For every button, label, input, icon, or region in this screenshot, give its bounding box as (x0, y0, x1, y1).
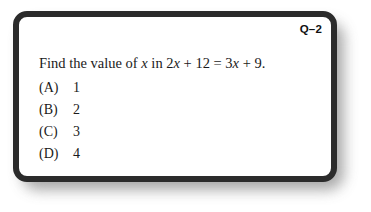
option-value: 2 (73, 102, 80, 118)
question-card: Q–2 Find the value of x in 2x + 12 = 3x … (13, 11, 337, 182)
option-key: (B) (39, 102, 73, 118)
option-value: 1 (73, 80, 80, 96)
answer-option-a[interactable]: (A) 1 (39, 80, 299, 102)
option-key: (C) (39, 124, 73, 140)
option-key: (D) (39, 146, 73, 162)
question-statement: Find the value of x in 2x + 12 = 3x + 9. (39, 55, 265, 72)
answer-option-c[interactable]: (C) 3 (39, 124, 299, 146)
question-mid-1: in 2 (148, 55, 174, 71)
question-prefix: Find the value of (39, 55, 141, 71)
page-canvas: Q–2 Find the value of x in 2x + 12 = 3x … (0, 0, 371, 212)
card-inner: Q–2 Find the value of x in 2x + 12 = 3x … (19, 17, 331, 176)
option-value: 4 (73, 146, 80, 162)
option-value: 3 (73, 124, 80, 140)
question-number-label: Q–2 (300, 23, 322, 35)
answer-option-d[interactable]: (D) 4 (39, 146, 299, 168)
question-suffix: + 9. (239, 55, 265, 71)
question-mid-2: + 12 = 3 (180, 55, 233, 71)
answer-options-list: (A) 1 (B) 2 (C) 3 (D) 4 (39, 80, 299, 168)
option-key: (A) (39, 80, 73, 96)
answer-option-b[interactable]: (B) 2 (39, 102, 299, 124)
